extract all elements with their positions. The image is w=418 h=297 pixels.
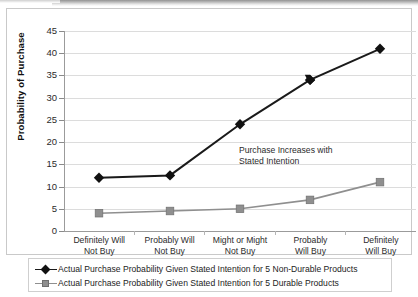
y-tick-label: 5 (35, 204, 57, 214)
y-tick-label: 25 (35, 115, 57, 125)
y-tick-label: 15 (35, 159, 57, 169)
x-label-line: Definitely Will (64, 235, 134, 246)
chart-page: Probability of Purchase 45 (0, 0, 418, 297)
y-tick-label: 10 (35, 182, 57, 192)
scan-shadow-artifact (52, 0, 418, 6)
x-axis-line (64, 231, 416, 232)
y-tick-label: 20 (35, 137, 57, 147)
x-label-line: Not Buy (64, 246, 134, 257)
x-label-line: Probably Will (134, 235, 204, 246)
chart-container: Probability of Purchase 45 (6, 8, 412, 255)
y-tick-label: 40 (35, 48, 57, 58)
legend-label-durable: Actual Purchase Probability Given Stated… (58, 278, 339, 288)
x-label-line: Probably (275, 235, 345, 246)
x-label-line: Will Buy (346, 246, 416, 257)
y-tick-label: 30 (35, 93, 57, 103)
chart-legend: Actual Purchase Probability Given Stated… (28, 258, 392, 292)
legend-label-nondurable: Actual Purchase Probability Given Stated… (58, 264, 358, 274)
legend-marker-diamond-icon (35, 263, 57, 275)
annotation-line-1: Purchase Increases with (239, 145, 333, 156)
x-label-line: Might or Might (205, 235, 275, 246)
legend-item-nondurable: Actual Purchase Probability Given Stated… (35, 262, 385, 276)
y-tick-label: 45 (35, 26, 57, 36)
y-tick-label: 0 (35, 226, 57, 236)
x-label-line: Will Buy (275, 246, 345, 257)
chart-annotation: Purchase Increases with Stated Intention (239, 145, 333, 167)
annotation-line-2: Stated Intention (239, 156, 333, 167)
x-label-line: Not Buy (205, 246, 275, 257)
legend-marker-square-icon (35, 277, 57, 289)
x-label-line: Definitely (346, 235, 416, 246)
y-axis-title: Probability of Purchase (15, 12, 26, 162)
y-axis-line (64, 31, 65, 232)
y-tick-label: 35 (35, 70, 57, 80)
legend-item-durable: Actual Purchase Probability Given Stated… (35, 276, 385, 290)
x-label-line: Not Buy (134, 246, 204, 257)
series-markers-durable (95, 178, 384, 217)
scan-shadow-artifact-left (0, 0, 60, 3)
